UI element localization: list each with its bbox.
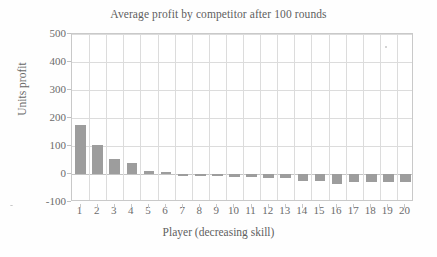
bar — [144, 171, 155, 174]
bar — [127, 163, 138, 174]
y-tick-label: -100 — [46, 195, 66, 207]
bar — [400, 174, 411, 182]
x-tick-mark — [233, 204, 234, 208]
x-tick-mark — [182, 204, 183, 208]
y-tick-label: 400 — [50, 55, 67, 67]
x-tick-mark — [165, 204, 166, 208]
x-tick-mark — [80, 204, 81, 208]
bar — [229, 174, 240, 177]
x-tick-mark — [251, 204, 252, 208]
bar — [75, 125, 86, 174]
bar — [178, 174, 189, 176]
x-tick-mark — [387, 204, 388, 208]
x-tick-mark — [336, 204, 337, 208]
x-tick-mark — [131, 204, 132, 208]
x-tick-mark — [97, 204, 98, 208]
bar — [349, 174, 360, 182]
chart-figure: Average profit by competitor after 100 r… — [0, 0, 437, 257]
x-tick-mark — [319, 204, 320, 208]
x-axis-tick-labels: 1234567891011121314151617181920 — [71, 204, 413, 220]
y-tick-label: 0 — [61, 167, 67, 179]
scan-speck — [385, 46, 387, 48]
bar — [366, 174, 377, 182]
x-tick-mark — [353, 204, 354, 208]
bar — [263, 174, 274, 178]
y-tick-label: 200 — [50, 111, 67, 123]
plot-area — [71, 33, 413, 201]
x-tick-mark — [148, 204, 149, 208]
bar — [315, 174, 326, 181]
bar-series — [72, 34, 412, 200]
bar — [332, 174, 343, 184]
x-tick-mark — [114, 204, 115, 208]
x-axis-label: Player (decreasing skill) — [0, 226, 437, 238]
x-tick-mark — [285, 204, 286, 208]
bar — [246, 174, 257, 177]
bar — [161, 172, 172, 174]
y-tick-label: 100 — [50, 139, 67, 151]
x-tick-mark — [404, 204, 405, 208]
x-tick-mark — [268, 204, 269, 208]
bar — [212, 174, 223, 176]
x-tick-mark — [302, 204, 303, 208]
x-tick-mark — [370, 204, 371, 208]
bar — [298, 174, 309, 181]
bar — [92, 145, 103, 174]
y-tick-mark — [67, 201, 71, 202]
x-tick-mark — [199, 204, 200, 208]
y-tick-label: 500 — [50, 27, 67, 39]
bar — [109, 159, 120, 174]
bar — [195, 174, 206, 176]
bar — [383, 174, 394, 182]
bar — [280, 174, 291, 178]
scan-speck — [10, 205, 13, 206]
y-tick-label: 300 — [50, 83, 67, 95]
x-tick-mark — [216, 204, 217, 208]
y-axis-tick-labels: 5004003002001000-100 — [0, 0, 71, 257]
